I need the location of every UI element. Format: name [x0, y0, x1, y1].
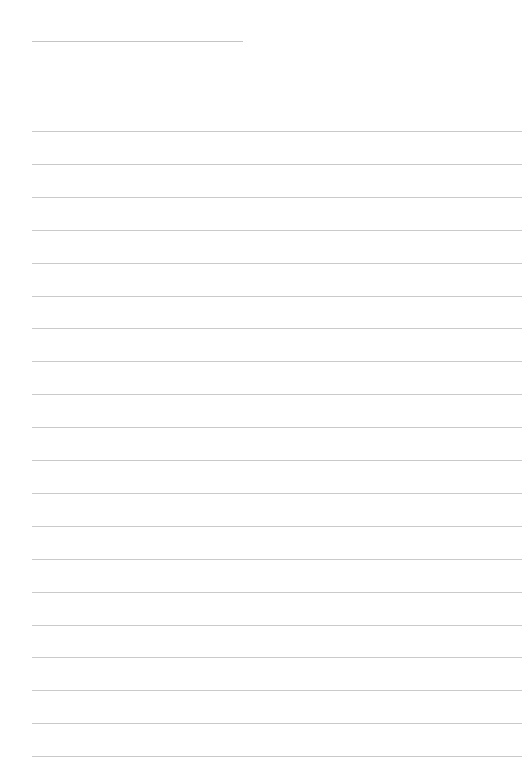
ruled-line	[32, 197, 522, 198]
ruled-line	[32, 131, 522, 132]
ruled-sheet	[0, 0, 528, 778]
ruled-line	[32, 526, 522, 527]
title-line	[32, 41, 243, 42]
ruled-line	[32, 460, 522, 461]
ruled-line	[32, 559, 522, 560]
ruled-line	[32, 592, 522, 593]
ruled-line	[32, 296, 522, 297]
ruled-line	[32, 427, 522, 428]
ruled-line	[32, 723, 522, 724]
ruled-line	[32, 164, 522, 165]
ruled-line	[32, 756, 522, 757]
ruled-line	[32, 657, 522, 658]
ruled-line	[32, 625, 522, 626]
ruled-line	[32, 230, 522, 231]
ruled-line	[32, 328, 522, 329]
ruled-line	[32, 394, 522, 395]
ruled-line	[32, 263, 522, 264]
ruled-line	[32, 493, 522, 494]
ruled-line	[32, 361, 522, 362]
ruled-line	[32, 690, 522, 691]
